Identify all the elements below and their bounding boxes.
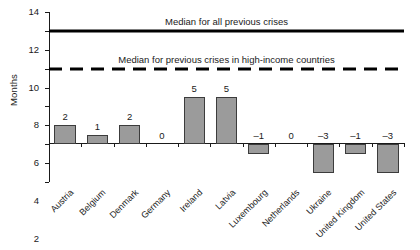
y-tick-label: 12: [28, 45, 39, 55]
bar-value-label: 5: [210, 84, 242, 94]
bar-value-label: –3: [372, 131, 404, 141]
y-tick-label: 6: [34, 158, 39, 168]
y-tick: 10: [45, 50, 49, 51]
y-tick: –4: [45, 182, 49, 183]
bar: [248, 144, 269, 153]
plot-area: 14121086420–2–4 Median for all previous …: [49, 12, 404, 182]
bar: [184, 97, 205, 144]
y-tick: 4: [45, 106, 49, 107]
x-tick: [243, 143, 244, 147]
x-tick: [114, 143, 115, 147]
bar: [87, 135, 108, 144]
x-axis-label-text: Germany: [140, 188, 173, 221]
y-tick-label: 10: [28, 83, 39, 93]
median-all-previous-crises-label: Median for all previous crises: [49, 17, 404, 27]
y-tick-label: 8: [34, 121, 39, 131]
bar-value-label: 2: [49, 112, 81, 122]
x-tick: [372, 143, 373, 147]
bar-value-label: –1: [243, 131, 275, 141]
median-high-income-countries-line: [49, 67, 404, 70]
median-all-previous-crises-line: [49, 29, 404, 32]
bar: [119, 125, 140, 144]
bar: [345, 144, 366, 153]
y-tick-label: 2: [34, 234, 39, 244]
bar-value-label: –1: [339, 131, 371, 141]
bar-value-label: 0: [146, 131, 178, 141]
y-tick-label: 14: [28, 7, 39, 17]
median-high-income-countries-label: Median for previous crises in high-incom…: [49, 55, 404, 65]
bar-value-label: –3: [307, 131, 339, 141]
x-tick: [178, 143, 179, 147]
bar: [54, 125, 75, 144]
y-tick: 2: [45, 125, 49, 126]
x-axis-label-text: Ireland: [179, 188, 205, 214]
y-tick: 6: [45, 88, 49, 89]
bar-value-label: 5: [178, 84, 210, 94]
x-axis-label-text: Belgium: [78, 188, 107, 217]
x-tick: [210, 143, 211, 147]
bar-value-label: 2: [114, 112, 146, 122]
bar-value-label: 1: [81, 122, 113, 132]
y-axis-line: [49, 12, 50, 182]
y-tick: 14: [45, 12, 49, 13]
x-tick: [275, 143, 276, 147]
x-axis-label-text: Ukraine: [305, 188, 333, 216]
x-axis-label-text: Denmark: [108, 188, 140, 220]
x-tick: [81, 143, 82, 147]
x-tick: [49, 143, 50, 147]
bar: [216, 97, 237, 144]
x-tick: [339, 143, 340, 147]
x-tick: [307, 143, 308, 147]
y-axis-title: Months: [8, 60, 19, 120]
x-axis-label-text: Latvia: [214, 188, 237, 211]
bar-chart: Months 14121086420–2–4 Median for all pr…: [0, 0, 420, 250]
x-axis-label-text: Austria: [49, 188, 75, 214]
x-tick: [146, 143, 147, 147]
y-tick-label: 4: [34, 196, 39, 206]
y-tick: –2: [45, 163, 49, 164]
bar-value-label: 0: [275, 131, 307, 141]
